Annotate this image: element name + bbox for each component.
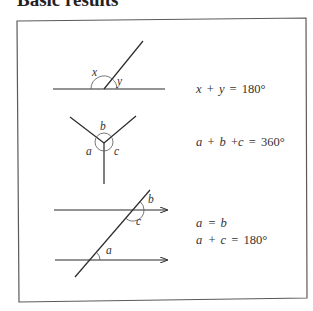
label-c: c [114, 145, 119, 157]
diagram-canvas: x y x + y = 180° b a c a + b +c = 360° [0, 0, 313, 311]
arm-left [70, 117, 104, 143]
transversal-line [75, 190, 150, 277]
label-a: a [106, 244, 112, 256]
angle-arc-b [140, 202, 144, 210]
label-b: b [148, 193, 154, 205]
equation-angles-at-point: a + b +c = 360° [196, 135, 285, 149]
label-x: x [91, 66, 98, 78]
label-b: b [100, 120, 106, 132]
label-c: c [136, 215, 141, 227]
panel-parallel-lines: b c a a = b a + c = 180° [54, 190, 267, 277]
angle-arc-a [97, 252, 101, 260]
panel-angles-at-point: b a c a + b +c = 360° [70, 116, 285, 184]
label-a: a [86, 145, 92, 157]
equation-straight-line: x + y = 180° [195, 82, 266, 96]
panel-straight-line: x y x + y = 180° [53, 41, 266, 96]
equation-co-interior: a + c = 180° [196, 233, 267, 247]
label-y: y [116, 75, 123, 88]
arm-right [104, 116, 136, 143]
ray-line [104, 41, 143, 89]
equation-corresponding: a = b [196, 216, 227, 230]
